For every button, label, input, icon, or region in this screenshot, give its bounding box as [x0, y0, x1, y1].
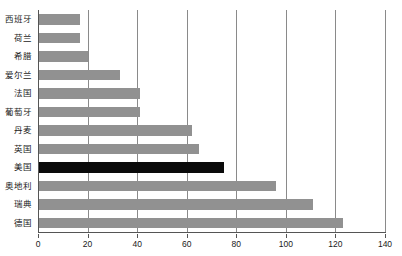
bar-4 [38, 88, 140, 99]
bar-3 [38, 70, 120, 81]
x-tick-60 [187, 234, 188, 238]
bar-row [38, 121, 385, 140]
bar-row [38, 47, 385, 66]
bar-row [38, 195, 385, 214]
x-tick-label-0: 0 [36, 239, 41, 249]
x-tick-140 [385, 234, 386, 238]
y-label-5: 葡萄牙 [5, 103, 32, 122]
x-tick-label-100: 100 [279, 239, 293, 249]
x-tick-20 [88, 234, 89, 238]
y-label-9: 奥地利 [5, 177, 32, 196]
bar-11 [38, 218, 343, 229]
x-tick-label-140: 140 [378, 239, 392, 249]
y-label-2: 希腊 [14, 47, 32, 66]
x-tick-label-80: 80 [232, 239, 241, 249]
y-label-3: 爱尔兰 [5, 66, 32, 85]
gridline-140 [385, 10, 386, 232]
y-axis-line [38, 10, 39, 233]
bar-7 [38, 144, 199, 155]
y-label-8: 美国 [14, 158, 32, 177]
x-tick-0 [38, 234, 39, 238]
x-tick-label-20: 20 [83, 239, 92, 249]
y-label-10: 瑞典 [14, 195, 32, 214]
bar-2 [38, 51, 88, 62]
y-axis-category-labels: 西班牙荷兰希腊爱尔兰法国葡萄牙丹麦英国美国奥地利瑞典德国 [0, 10, 36, 232]
x-tick-label-40: 40 [132, 239, 141, 249]
plot-area [38, 10, 385, 232]
y-label-4: 法国 [14, 84, 32, 103]
x-tick-80 [236, 234, 237, 238]
y-label-1: 荷兰 [14, 29, 32, 48]
bar-row [38, 66, 385, 85]
bar-1 [38, 33, 80, 44]
bar-row [38, 10, 385, 29]
y-label-6: 丹麦 [14, 121, 32, 140]
y-label-0: 西班牙 [5, 10, 32, 29]
bar-0 [38, 14, 80, 25]
bar-chart: 西班牙荷兰希腊爱尔兰法国葡萄牙丹麦英国美国奥地利瑞典德国 02040608010… [0, 0, 402, 256]
x-axis-tick-labels: 020406080100120140 [0, 234, 402, 254]
x-tick-120 [335, 234, 336, 238]
y-label-11: 德国 [14, 214, 32, 233]
bar-8 [38, 162, 224, 173]
bar-row [38, 140, 385, 159]
bar-row [38, 29, 385, 48]
bar-row [38, 84, 385, 103]
bar-row [38, 177, 385, 196]
bar-row [38, 158, 385, 177]
x-tick-label-120: 120 [328, 239, 342, 249]
bar-row [38, 214, 385, 233]
y-label-7: 英国 [14, 140, 32, 159]
bar-10 [38, 199, 313, 210]
x-tick-40 [137, 234, 138, 238]
bar-row [38, 103, 385, 122]
x-axis-line [38, 232, 386, 233]
bar-6 [38, 125, 192, 136]
x-tick-label-60: 60 [182, 239, 191, 249]
bar-series [38, 10, 385, 232]
bar-9 [38, 181, 276, 192]
x-tick-100 [286, 234, 287, 238]
bar-5 [38, 107, 140, 118]
